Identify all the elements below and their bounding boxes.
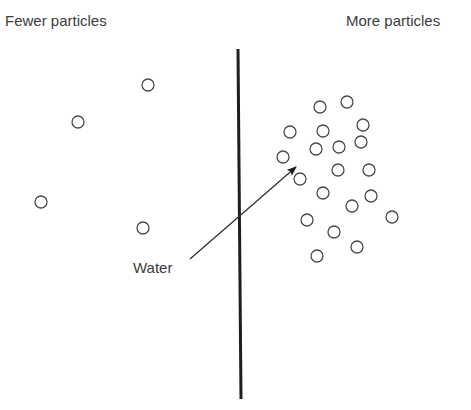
particle-icon	[142, 79, 154, 91]
particle-icon	[332, 164, 344, 176]
water-flow-arrow	[190, 167, 296, 259]
particle-icon	[386, 211, 398, 223]
particle-icon	[277, 151, 289, 163]
particle-icon	[294, 173, 306, 185]
particle-icon	[310, 143, 322, 155]
particle-icon	[351, 241, 363, 253]
particle-icon	[35, 196, 47, 208]
particle-icon	[346, 200, 358, 212]
particle-icon	[311, 250, 323, 262]
semipermeable-membrane	[238, 49, 241, 399]
particle-icon	[355, 136, 367, 148]
particle-icon	[137, 222, 149, 234]
osmosis-diagram	[0, 0, 471, 410]
particle-icon	[328, 226, 340, 238]
right-particles	[277, 96, 398, 262]
particle-icon	[357, 119, 369, 131]
particle-icon	[284, 126, 296, 138]
particle-icon	[333, 141, 345, 153]
left-particles	[35, 79, 154, 234]
particle-icon	[314, 101, 326, 113]
particle-icon	[363, 164, 375, 176]
particle-icon	[301, 214, 313, 226]
particle-icon	[365, 190, 377, 202]
particle-icon	[72, 116, 84, 128]
particle-icon	[341, 96, 353, 108]
particle-icon	[317, 125, 329, 137]
particle-icon	[317, 187, 329, 199]
